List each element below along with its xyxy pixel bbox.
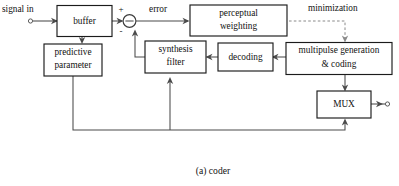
wire-bottom-bus-to-synthesis (167, 77, 173, 130)
mux-output-terminal (385, 102, 389, 106)
figure-caption: (a) coder (196, 165, 231, 177)
block-synthesis-filter-label-1: synthesis (158, 44, 192, 54)
block-perceptual-weighting-label-1: perceptual (219, 8, 258, 18)
block-buffer: buffer (57, 6, 112, 37)
label-minimization: minimization (308, 3, 358, 13)
wire-signal-in-to-buffer (33, 18, 58, 24)
block-mux-label: MUX (333, 99, 355, 109)
block-multipulse-label-1: multipulse generation (299, 45, 380, 55)
label-signal-in: signal in (2, 4, 34, 14)
block-perceptual-weighting-label-2: weighting (220, 21, 258, 31)
wire-buffer-to-summer (112, 18, 124, 24)
block-predictive-parameter-label-2: parameter (54, 60, 92, 70)
block-synthesis-filter-label-2: filter (166, 57, 185, 67)
wire-summer-to-perceptual (136, 18, 190, 24)
wire-minimization-dashed (289, 21, 348, 43)
signal-in-terminal (28, 19, 32, 23)
block-mux: MUX (317, 91, 371, 118)
block-predictive-parameter-label-1: predictive (54, 47, 91, 57)
wire-buffer-to-predictive (79, 37, 85, 44)
wire-predictive-feedback-to-mux (73, 76, 348, 130)
block-multipulse-generation: multipulse generation & coding (286, 43, 392, 75)
block-decoding-label: decoding (228, 52, 262, 62)
block-decoding: decoding (218, 43, 273, 71)
summing-minus-sign: - (120, 26, 123, 36)
block-synthesis-filter: synthesis filter (145, 41, 206, 73)
summing-plus-sign: + (118, 4, 123, 14)
block-perceptual-weighting: perceptual weighting (190, 5, 287, 36)
wire-decoding-to-synthesis (206, 54, 219, 60)
coder-block-diagram: buffer predictive parameter perceptual w… (0, 0, 399, 186)
wire-multipulse-to-mux (342, 75, 348, 92)
block-buffer-label: buffer (73, 16, 96, 26)
label-error: error (149, 4, 168, 14)
block-multipulse-label-2: & coding (322, 59, 357, 69)
summing-junction (123, 15, 136, 28)
block-predictive-parameter: predictive parameter (44, 44, 102, 76)
wire-synthesis-to-summer (132, 30, 145, 58)
wire-multipulse-to-decoding (272, 54, 287, 60)
wire-mux-output (371, 101, 385, 107)
